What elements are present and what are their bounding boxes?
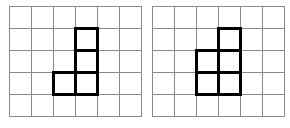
shape-cell	[219, 73, 241, 95]
shape-cell	[76, 73, 98, 95]
right-grid-canvas	[152, 6, 285, 117]
shape-cell	[219, 29, 241, 51]
shape-cell	[76, 29, 98, 51]
right-grid	[152, 6, 284, 116]
left-grid-canvas	[9, 6, 142, 117]
left-shape-j-tetromino	[54, 29, 98, 95]
shape-cell	[197, 51, 219, 73]
shape-cell	[76, 51, 98, 73]
shape-cell	[54, 73, 76, 95]
shape-cell	[219, 51, 241, 73]
shape-cell	[197, 73, 219, 95]
figure-root	[0, 0, 290, 128]
left-grid	[9, 6, 141, 116]
right-shape-p-pentomino	[197, 29, 241, 95]
